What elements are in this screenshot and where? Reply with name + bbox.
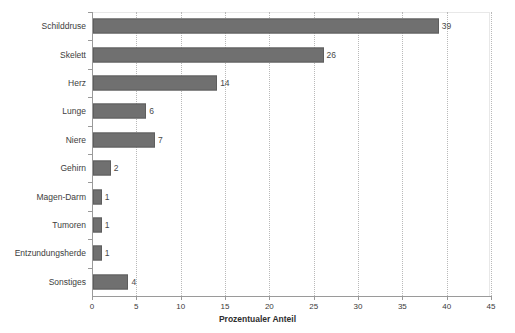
x-tick-label-30: 30: [354, 302, 363, 311]
x-tick-35: [402, 296, 403, 300]
x-tick-5: [136, 296, 137, 300]
x-tick-20: [269, 296, 270, 300]
x-tick-label-45: 45: [487, 302, 496, 311]
category-label-4: Niere: [66, 135, 86, 145]
x-tick-label-20: 20: [265, 302, 274, 311]
category-label-3: Lunge: [62, 106, 86, 116]
bar-5: [93, 161, 111, 176]
x-tick-40: [447, 296, 448, 300]
category-label-8: Entzundungsherde: [15, 248, 86, 258]
bar-4: [93, 132, 155, 147]
y-tick-6: [88, 182, 92, 183]
bar-7: [93, 217, 102, 232]
category-label-9: Sonstiges: [49, 277, 86, 287]
bar-9: [93, 274, 128, 289]
bar-value-label-0: 39: [442, 21, 451, 31]
x-tick-label-25: 25: [309, 302, 318, 311]
bar-8: [93, 246, 102, 261]
category-label-2: Herz: [68, 78, 86, 88]
category-label-0: Schilddruse: [42, 21, 86, 31]
x-tick-0: [92, 296, 93, 300]
y-tick-7: [88, 211, 92, 212]
bar-row: Schilddruse39: [0, 12, 515, 40]
bar-value-label-4: 7: [158, 135, 163, 145]
bar-value-label-5: 2: [114, 163, 119, 173]
y-tick-2: [88, 69, 92, 70]
bar-1: [93, 47, 324, 62]
bar-value-label-9: 4: [131, 277, 136, 287]
bar-row: Niere7: [0, 126, 515, 154]
y-tick-5: [88, 154, 92, 155]
x-tick-label-40: 40: [442, 302, 451, 311]
bar-0: [93, 19, 439, 34]
bar-value-label-7: 1: [105, 220, 110, 230]
bar-2: [93, 75, 217, 90]
bar-value-label-8: 1: [105, 248, 110, 258]
bar-row: Gehirn2: [0, 154, 515, 182]
x-tick-label-5: 5: [134, 302, 138, 311]
bar-row: Lunge6: [0, 97, 515, 125]
x-tick-10: [181, 296, 182, 300]
bar-row: Entzundungsherde1: [0, 239, 515, 267]
bar-value-label-6: 1: [105, 192, 110, 202]
y-tick-1: [88, 40, 92, 41]
x-tick-label-10: 10: [176, 302, 185, 311]
bar-6: [93, 189, 102, 204]
x-tick-30: [358, 296, 359, 300]
category-label-1: Skelett: [60, 50, 86, 60]
x-tick-label-0: 0: [90, 302, 94, 311]
bar-row: Magen-Darm1: [0, 182, 515, 210]
x-tick-25: [314, 296, 315, 300]
y-tick-4: [88, 126, 92, 127]
y-tick-8: [88, 239, 92, 240]
bar-row: Herz14: [0, 69, 515, 97]
x-axis-title: Prozentualer Anteil: [0, 314, 515, 324]
category-label-7: Tumoren: [52, 220, 86, 230]
category-label-5: Gehirn: [60, 163, 86, 173]
x-tick-label-15: 15: [221, 302, 230, 311]
bar-row: Sonstiges4: [0, 268, 515, 296]
bar-row: Tumoren1: [0, 211, 515, 239]
x-axis-line: [92, 296, 491, 297]
y-tick-9: [88, 268, 92, 269]
bar-chart: Schilddruse39Skelett26Herz14Lunge6Niere7…: [0, 0, 515, 333]
bar-3: [93, 104, 146, 119]
x-tick-15: [225, 296, 226, 300]
y-tick-3: [88, 97, 92, 98]
x-tick-45: [491, 296, 492, 300]
category-label-6: Magen-Darm: [36, 192, 86, 202]
bar-value-label-2: 14: [220, 78, 229, 88]
bar-row: Skelett26: [0, 40, 515, 68]
bar-value-label-1: 26: [327, 50, 336, 60]
bar-value-label-3: 6: [149, 106, 154, 116]
y-tick-0: [88, 12, 92, 13]
x-tick-label-35: 35: [398, 302, 407, 311]
